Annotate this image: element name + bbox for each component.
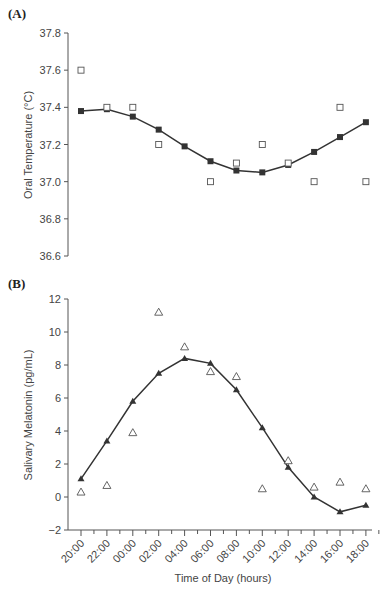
temperature-axis-title: Oral Temperature (°C) [22, 91, 34, 199]
data-point [78, 108, 84, 114]
x-tick-label: 00:00 [110, 537, 138, 565]
data-point [284, 457, 292, 464]
x-tick-label: 08:00 [214, 537, 242, 565]
y-tick-label: 36.6 [40, 250, 61, 262]
data-point [258, 485, 266, 492]
y-tick-label: 2 [55, 458, 61, 470]
data-point [78, 67, 84, 73]
y-tick-label: 12 [49, 293, 61, 305]
data-point [311, 179, 317, 185]
data-point [362, 485, 370, 492]
data-point [181, 355, 188, 361]
data-point [233, 160, 239, 166]
x-tick-label: 10:00 [240, 537, 268, 565]
fitted-line [81, 358, 366, 511]
chart-figure: (A) (B) 37.837.637.437.237.036.836.6 121… [0, 0, 392, 592]
panel-b-label: (B) [8, 276, 25, 291]
melatonin-axis-title: Salivary Melatonin (pg/mL) [22, 350, 34, 481]
y-tick-label: 37.4 [40, 101, 61, 113]
y-tick-label: 6 [55, 392, 61, 404]
data-point [104, 104, 110, 110]
data-point [103, 481, 111, 488]
y-tick-label: 0 [55, 491, 61, 503]
data-point [232, 373, 240, 380]
x-tick-label: 04:00 [162, 537, 190, 565]
fitted-line [81, 109, 366, 172]
data-point [208, 179, 214, 185]
data-point [363, 119, 369, 125]
x-tick-label: 12:00 [266, 537, 294, 565]
x-tick-label: 06:00 [188, 537, 216, 565]
x-tick-label: 18:00 [343, 537, 371, 565]
data-point [155, 370, 162, 376]
x-tick-label: 14:00 [292, 537, 320, 565]
data-point [129, 429, 137, 436]
data-point [207, 368, 215, 375]
data-point [310, 483, 318, 490]
data-point [259, 142, 265, 148]
data-point [311, 149, 317, 155]
y-tick-label: 37.8 [40, 27, 61, 39]
data-point [181, 343, 189, 350]
data-point [337, 104, 343, 110]
y-tick-label: −2 [48, 524, 61, 536]
y-tick-label: 37.6 [40, 64, 61, 76]
y-tick-label: 36.8 [40, 213, 61, 225]
data-point [233, 168, 239, 174]
y-tick-label: 37.2 [40, 139, 61, 151]
y-tick-label: 10 [49, 326, 61, 338]
x-tick-label: 22:00 [84, 537, 112, 565]
data-point [259, 169, 265, 175]
data-point [362, 502, 369, 508]
data-point [130, 104, 136, 110]
temperature-plot: 37.837.637.437.237.036.836.6 [40, 27, 369, 262]
melatonin-plot: 121086420−220:0022:0000:0002:0004:0006:0… [48, 293, 378, 565]
data-point [208, 158, 214, 164]
data-point [285, 160, 291, 166]
x-tick-label: 20:00 [58, 537, 86, 565]
data-point [156, 142, 162, 148]
data-point [337, 134, 343, 140]
x-tick-label: 16:00 [317, 537, 345, 565]
data-point [363, 179, 369, 185]
time-axis-title: Time of Day (hours) [175, 572, 272, 584]
data-point [156, 127, 162, 133]
data-point [336, 478, 344, 485]
y-tick-label: 8 [55, 359, 61, 371]
panel-a-label: (A) [8, 6, 26, 21]
data-point [77, 488, 85, 495]
y-tick-label: 4 [55, 425, 61, 437]
data-point [130, 114, 136, 120]
x-tick-label: 02:00 [136, 537, 164, 565]
data-point [182, 143, 188, 149]
data-point [155, 308, 163, 315]
y-tick-label: 37.0 [40, 176, 61, 188]
